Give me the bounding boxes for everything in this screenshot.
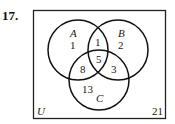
region-c-only: 13: [82, 83, 94, 95]
region-a-b-c: 5: [96, 53, 102, 65]
region-a-only: 1: [70, 39, 76, 51]
region-b-only: 2: [118, 39, 124, 51]
set-label-a: A: [69, 27, 77, 39]
venn-diagram: A B C 1 2 1 5 8 3 13 U 21: [0, 0, 175, 124]
region-a-c-only: 8: [80, 63, 86, 75]
universe-outside-count: 21: [152, 105, 163, 117]
region-b-c-only: 3: [111, 63, 117, 75]
region-a-b-only: 1: [95, 36, 101, 48]
set-label-b: B: [118, 27, 125, 39]
universe-label: U: [37, 105, 46, 117]
set-label-c: C: [96, 92, 104, 104]
